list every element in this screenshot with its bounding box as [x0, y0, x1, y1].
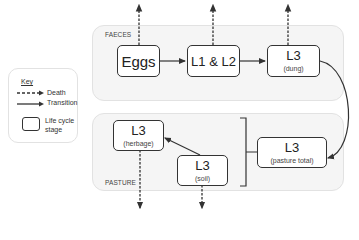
- stage-l3-pasture-total-label: L3: [285, 141, 299, 154]
- stage-l3-dung-label: L3: [286, 49, 300, 62]
- stage-l1l2: L1 & L2: [187, 45, 240, 77]
- stage-l3-dung-sub: (dung): [283, 64, 303, 73]
- stage-l3-dung: L3 (dung): [267, 45, 320, 77]
- stage-l3-pasture-total: L3 (pasture total): [257, 137, 327, 168]
- stage-eggs: Eggs: [117, 45, 160, 77]
- stage-l3-herbage-label: L3: [131, 124, 145, 137]
- bracket: [240, 118, 257, 186]
- stage-l3-soil: L3 (soil): [177, 155, 228, 186]
- stage-l3-herbage-sub: (herbage): [123, 139, 153, 148]
- stage-eggs-label: Eggs: [121, 55, 155, 68]
- stage-l3-pasture-total-sub: (pasture total): [270, 156, 313, 165]
- stage-l3-herbage: L3 (herbage): [113, 120, 164, 151]
- stage-l3-soil-sub: (soil): [195, 174, 210, 183]
- transition-soil-herbage: [165, 138, 200, 155]
- stage-l3-soil-label: L3: [195, 159, 209, 172]
- stage-l1l2-label: L1 & L2: [191, 55, 236, 68]
